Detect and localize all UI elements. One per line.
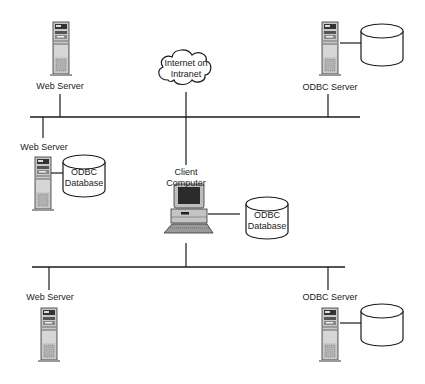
bottom-right-odbc-server-icon	[319, 308, 341, 362]
client-label-line1: Client	[160, 167, 212, 178]
left-web-server-label: Web Server	[16, 142, 72, 153]
top-right-database-icon	[361, 24, 403, 66]
client-db-label-line2: Database	[246, 221, 288, 232]
cloud-label-line1: Internet on	[160, 58, 212, 69]
bottom-web-server-label: Web Server	[22, 292, 78, 303]
client-computer-icon	[164, 184, 213, 233]
top-right-odbc-server-icon	[319, 22, 341, 76]
top-odbc-server-label: ODBC Server	[302, 82, 358, 93]
client-label-line2: Computer	[160, 178, 212, 189]
bottom-odbc-server-label: ODBC Server	[302, 292, 358, 303]
left-db-label-line2: Database	[63, 178, 105, 189]
bottom-right-database-icon	[361, 304, 403, 346]
network-diagram-canvas	[0, 0, 425, 384]
top-web-server-label: Web Server	[32, 81, 88, 92]
top-left-web-server-icon	[50, 22, 72, 76]
left-web-server-icon	[32, 157, 54, 211]
bottom-left-web-server-icon	[38, 308, 60, 362]
client-db-label-line1: ODBC	[246, 210, 288, 221]
cloud-label-line2: Intranet	[160, 69, 212, 80]
left-db-label-line1: ODBC	[63, 167, 105, 178]
